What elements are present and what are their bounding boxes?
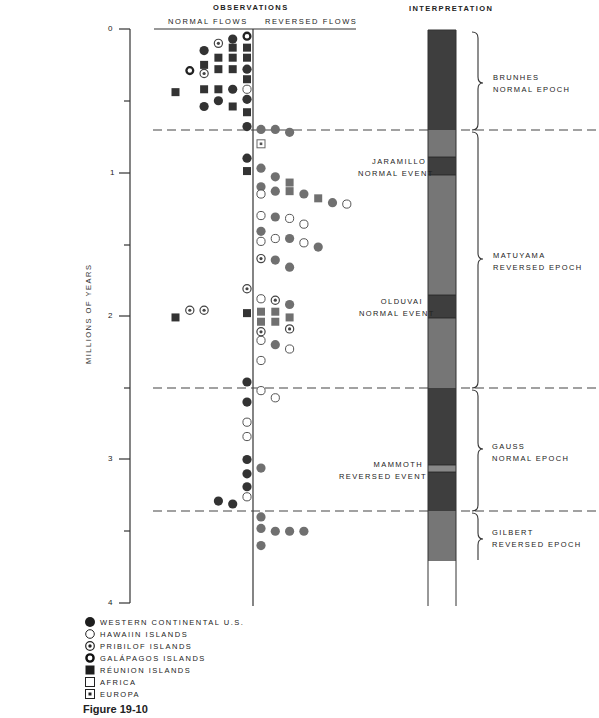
data-point-western_us [228, 34, 237, 43]
tick-1: 1 [110, 168, 114, 177]
data-point-europa [257, 140, 265, 148]
data-point-western_us [256, 512, 265, 521]
tick-4: 4 [108, 598, 112, 607]
data-point-western_us [285, 527, 294, 536]
data-point-reunion [214, 54, 222, 62]
data-point-western_us [271, 212, 280, 221]
data-point-western_us [299, 189, 308, 198]
data-point-reunion [243, 309, 251, 317]
data-point-western_us [242, 469, 251, 478]
data-point-western_us [242, 154, 251, 163]
data-point-western_us [285, 300, 294, 309]
data-point-reunion [229, 44, 237, 52]
legend-western-us: WESTERN CONTINENTAL U.S. [84, 616, 244, 628]
data-point-pribilof [257, 255, 265, 263]
data-point-reunion [200, 85, 208, 93]
data-point-pribilof [257, 328, 265, 336]
legend-pribilof: PRIBILOF ISLANDS [84, 640, 192, 652]
data-point-reunion [271, 318, 279, 326]
data-point-pribilof [243, 285, 251, 293]
data-point-reunion [229, 65, 237, 73]
legend-africa: AFRICA [84, 676, 137, 688]
data-point-reunion [200, 61, 208, 69]
data-point-reunion [172, 88, 180, 96]
data-point-western_us [271, 255, 280, 264]
data-point-hawaii [257, 356, 265, 364]
data-point-reunion [257, 318, 265, 326]
data-point-hawaii [300, 239, 308, 247]
data-point-pribilof [286, 325, 294, 333]
data-point-reunion [243, 54, 251, 62]
data-point-western_us [256, 524, 265, 533]
data-point-reunion [172, 313, 180, 321]
data-point-western_us [242, 95, 251, 104]
olduvai-label: OLDUVAINORMAL EVENT [359, 296, 423, 320]
data-point-western_us [271, 172, 280, 181]
data-point-reunion [229, 54, 237, 62]
mammoth-label: MAMMOTHREVERSED EVENT [339, 459, 423, 483]
data-point-western_us [242, 455, 251, 464]
data-point-reunion [271, 308, 279, 316]
data-point-hawaii [257, 237, 265, 245]
data-point-western_us [242, 377, 251, 386]
data-point-reunion [243, 75, 251, 83]
tick-2: 2 [108, 311, 112, 320]
data-point-western_us [285, 263, 294, 272]
data-point-reunion [243, 108, 251, 116]
data-point-western_us [285, 128, 294, 137]
matuyama-label: MATUYAMAREVERSED EPOCH [493, 250, 583, 274]
data-point-western_us [256, 464, 265, 473]
brunhes-label: BRUNHESNORMAL EPOCH [493, 72, 570, 96]
data-point-reunion [286, 313, 294, 321]
data-point-western_us [200, 46, 209, 55]
polarity-column [428, 30, 456, 606]
data-point-reunion [314, 194, 322, 202]
data-point-western_us [228, 499, 237, 508]
data-point-pribilof [200, 69, 208, 77]
data-point-western_us [256, 125, 265, 134]
tick-3: 3 [108, 454, 112, 463]
tick-0: 0 [108, 24, 112, 33]
data-point-hawaii [257, 336, 265, 344]
data-point-western_us [242, 122, 251, 131]
gilbert-label: GILBERTREVERSED EPOCH [492, 527, 582, 551]
data-point-galapagos [244, 33, 251, 40]
y-axis-label: MILLIONS OF YEARS [84, 264, 93, 364]
data-points [172, 33, 351, 550]
data-point-hawaii [257, 387, 265, 395]
data-point-western_us [242, 482, 251, 491]
data-point-western_us [271, 125, 280, 134]
legend-hawaii: HAWAIIN ISLANDS [84, 628, 188, 640]
data-point-reunion [286, 179, 294, 187]
data-point-hawaii [257, 295, 265, 303]
data-point-western_us [271, 187, 280, 196]
data-point-reunion [243, 44, 251, 52]
data-point-western_us [242, 65, 251, 74]
data-point-western_us [271, 527, 280, 536]
legend-reunion: RÉUNION ISLANDS [84, 664, 191, 676]
data-point-pribilof [271, 296, 279, 304]
data-point-reunion [214, 65, 222, 73]
gauss-label: GAUSSNORMAL EPOCH [492, 441, 569, 465]
data-point-western_us [200, 102, 209, 111]
jaramillo-label: JARAMILLONORMAL EVENT [372, 156, 422, 180]
data-point-pribilof [186, 306, 194, 314]
epoch-braces [472, 32, 483, 560]
legend-galapagos: GALÁPAGOS ISLANDS [84, 652, 206, 664]
data-point-hawaii [243, 432, 251, 440]
data-point-western_us [328, 198, 337, 207]
y-axis-ticks [119, 29, 130, 603]
data-point-hawaii [243, 85, 251, 93]
data-point-western_us [256, 227, 265, 236]
data-point-galapagos [186, 67, 193, 74]
data-point-hawaii [286, 345, 294, 353]
data-point-hawaii [243, 418, 251, 426]
data-point-reunion [229, 102, 237, 110]
legend-europa: EUROPA [84, 688, 140, 700]
data-point-hawaii [257, 190, 265, 198]
data-point-western_us [256, 164, 265, 173]
data-point-hawaii [257, 211, 265, 219]
data-point-pribilof [200, 306, 208, 314]
figure-caption: Figure 19-10 [83, 703, 148, 715]
data-point-hawaii [271, 394, 279, 402]
